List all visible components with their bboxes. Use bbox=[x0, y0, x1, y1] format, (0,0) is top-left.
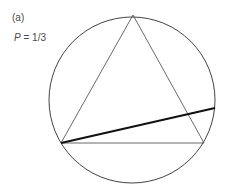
bertrand-diagram bbox=[0, 0, 226, 196]
random-chord bbox=[61, 108, 215, 143]
circle bbox=[49, 17, 215, 183]
